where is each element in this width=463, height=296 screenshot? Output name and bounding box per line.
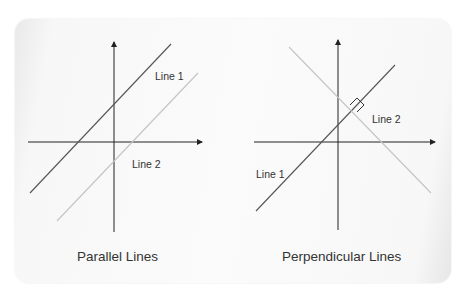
line-2-label: Line 2 [132,158,161,170]
parallel-lines-diagram: Line 1 Line 2 Parallel Lines [28,42,202,264]
line-2-label: Line 2 [372,113,401,125]
line-1 [30,44,171,193]
line-2 [289,47,431,193]
line-1-label: Line 1 [155,70,184,82]
line-1-label: Line 1 [256,168,285,180]
perpendicular-lines-diagram: Line 2 Line 1 Perpendicular Lines [254,40,435,264]
perpendicular-caption: Perpendicular Lines [282,249,402,264]
parallel-caption: Parallel Lines [77,249,158,264]
line-2 [57,73,198,221]
diagram-canvas: Line 1 Line 2 Parallel Lines Line 2 Line… [0,0,463,296]
line-1 [256,65,395,211]
